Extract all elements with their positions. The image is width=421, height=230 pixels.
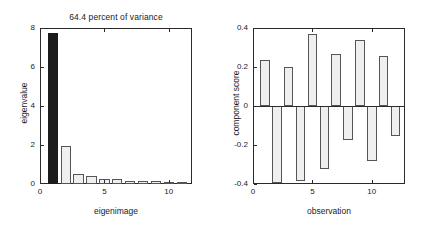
right-x-tick-mark-top	[372, 29, 373, 32]
bar-eigenvalue	[86, 176, 96, 184]
right-y-tick-mark	[254, 145, 257, 146]
bar-component-score-negative	[367, 106, 377, 161]
left-y-tick-mark	[41, 106, 44, 107]
bar-component-score-negative	[296, 106, 306, 181]
left-x-tick-mark	[104, 180, 105, 183]
left-y-tick: 8	[8, 24, 35, 32]
right-y-tick: -0.4	[213, 180, 248, 188]
right-x-tick: 10	[364, 188, 380, 196]
right-x-tick: 0	[245, 188, 261, 196]
bar-eigenvalue	[151, 181, 161, 184]
zero-baseline	[253, 106, 405, 107]
left-y-tick: 6	[8, 63, 35, 71]
right-y-tick-mark	[254, 106, 257, 107]
right-y-tick: 0	[213, 102, 248, 110]
component-score-panel: component score observation -0.4-0.200.2…	[211, 0, 421, 230]
left-y-tick-mark	[41, 28, 44, 29]
bar-component-score-positive	[331, 54, 341, 106]
left-x-tick: 10	[161, 188, 177, 196]
left-x-tick-mark-top	[169, 29, 170, 32]
right-x-tick-mark-top	[312, 29, 313, 32]
bar-component-score-positive	[308, 34, 318, 106]
right-x-tick: 5	[304, 188, 320, 196]
right-y-tick-mark	[254, 28, 257, 29]
bar-component-score-positive	[355, 40, 365, 106]
bar-component-score-positive	[379, 56, 389, 106]
bar-eigenvalue	[61, 146, 71, 184]
left-y-tick: 2	[8, 141, 35, 149]
right-x-tick-mark	[312, 180, 313, 183]
right-y-tick: 0.4	[213, 24, 248, 32]
bar-component-score-positive	[284, 67, 294, 106]
left-y-tick: 0	[8, 180, 35, 188]
left-x-tick: 0	[32, 188, 48, 196]
left-y-tick-mark	[41, 145, 44, 146]
bar-component-score-positive	[260, 60, 270, 106]
left-y-tick: 4	[8, 102, 35, 110]
right-y-tick: -0.2	[213, 141, 248, 149]
bar-eigenvalue	[177, 182, 187, 184]
left-y-tick-mark	[41, 67, 44, 68]
bar-eigenvalue-highlighted	[48, 33, 58, 184]
left-x-tick: 5	[96, 188, 112, 196]
bar-eigenvalue	[138, 181, 148, 184]
right-x-tick-mark	[372, 180, 373, 183]
bar-component-score-negative	[391, 106, 401, 136]
left-x-tick-mark-top	[104, 29, 105, 32]
bar-component-score-negative	[272, 106, 282, 183]
right-y-tick-mark	[254, 67, 257, 68]
figure-canvas: 64.4 percent of variance eigenvalue eige…	[0, 0, 421, 230]
bar-component-score-negative	[320, 106, 330, 169]
left-x-tick-mark	[169, 180, 170, 183]
right-y-tick: 0.2	[213, 63, 248, 71]
left-x-axis-label: eigenimage	[40, 206, 192, 216]
right-x-axis-label: observation	[253, 206, 405, 216]
bar-component-score-negative	[343, 106, 353, 140]
scree-plot-panel: 64.4 percent of variance eigenvalue eige…	[0, 0, 211, 230]
left-chart-title: 64.4 percent of variance	[40, 12, 192, 22]
bar-eigenvalue	[112, 179, 122, 184]
bar-eigenvalue	[125, 181, 135, 184]
right-y-tick-mark	[254, 184, 257, 185]
bar-eigenvalue	[73, 174, 83, 184]
